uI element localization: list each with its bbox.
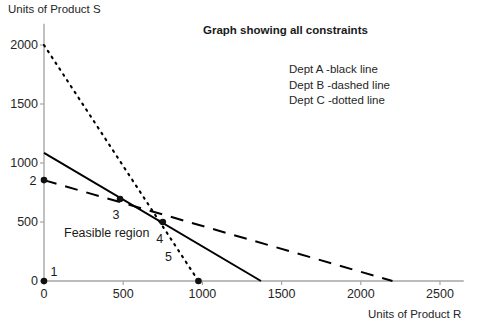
y-tick-label: 0 bbox=[0, 274, 38, 288]
vertex-label-2: 2 bbox=[30, 174, 37, 188]
vertex-point-3 bbox=[117, 196, 124, 203]
vertex-point-1 bbox=[41, 278, 48, 285]
y-tick-label: 500 bbox=[0, 215, 38, 229]
vertex-label-1: 1 bbox=[51, 265, 58, 279]
x-tick-label: 500 bbox=[113, 287, 134, 301]
x-tick-label: 0 bbox=[41, 287, 48, 301]
vertex-label-5: 5 bbox=[165, 250, 172, 264]
y-tick-label: 1500 bbox=[0, 97, 38, 111]
vertex-label-4: 4 bbox=[156, 232, 163, 246]
vertex-point-4 bbox=[160, 219, 167, 226]
series-line-3 bbox=[44, 45, 198, 281]
constraints-graph: Units of Product S Graph showing all con… bbox=[0, 0, 477, 329]
x-axis-title: Units of Product R bbox=[368, 309, 461, 321]
x-tick-label: 2000 bbox=[347, 287, 375, 301]
vertex-point-5 bbox=[195, 278, 202, 285]
feasible-region-label: Feasible region bbox=[64, 227, 149, 240]
series-line-1 bbox=[44, 153, 261, 281]
y-tick-label: 2000 bbox=[0, 38, 38, 52]
vertex-point-2 bbox=[41, 177, 48, 184]
vertex-label-3: 3 bbox=[113, 208, 120, 222]
x-tick-label: 2500 bbox=[426, 287, 454, 301]
x-tick-label: 1000 bbox=[188, 287, 216, 301]
x-tick-label: 1500 bbox=[268, 287, 296, 301]
plot-area bbox=[0, 0, 477, 329]
y-tick-label: 1000 bbox=[0, 156, 38, 170]
